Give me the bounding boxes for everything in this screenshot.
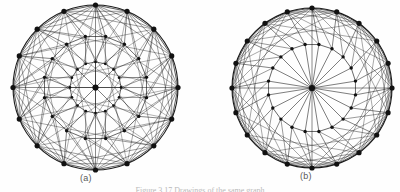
panel-a-graph [10, 2, 180, 172]
panel-label-b: (b) [300, 171, 312, 181]
graph-drawing-canvas [0, 0, 400, 192]
figure-caption: Figure 3.17 Drawings of the same graph [0, 186, 400, 192]
figure-container: (a) (b) Figure 3.17 Drawings of the same… [0, 0, 400, 192]
panel-label-a: (a) [80, 173, 92, 183]
